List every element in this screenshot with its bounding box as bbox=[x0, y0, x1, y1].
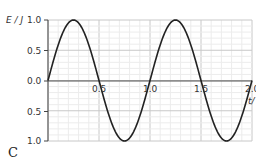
x-axis-label: t/ bbox=[248, 96, 256, 106]
x-tick-label: 2.0 bbox=[245, 84, 256, 94]
y-tick-label: 0.5 bbox=[27, 107, 41, 117]
x-tick-label: 0.5 bbox=[92, 84, 106, 94]
y-tick-label: 1.0 bbox=[27, 136, 42, 146]
y-tick-label: 0.5 bbox=[27, 46, 41, 56]
y-ticks bbox=[44, 20, 48, 141]
x-tick-label: 1.0 bbox=[143, 84, 158, 94]
x-tick-label: 1.5 bbox=[194, 84, 208, 94]
chart: E / J 1.0 0.5 0.0 0.5 1.0 0.5 1.0 1.5 2.… bbox=[0, 0, 256, 160]
y-tick-label: 0.0 bbox=[27, 76, 42, 86]
y-tick-label: 1.0 bbox=[27, 15, 42, 25]
y-axis-label: E / J bbox=[6, 15, 23, 25]
panel-label: C bbox=[8, 145, 18, 160]
